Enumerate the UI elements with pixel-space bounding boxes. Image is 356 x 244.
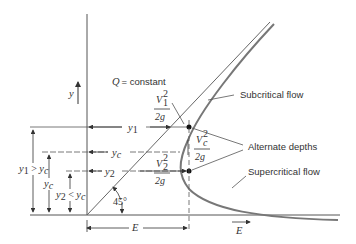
velocity-head-2: V 2 2 2g xyxy=(154,152,170,186)
svg-text:2g: 2g xyxy=(195,151,205,162)
q-constant-label: Q= constant xyxy=(112,76,166,87)
subcritical-flow-label: Subcritical flow xyxy=(240,89,303,100)
angle-45-label: 45° xyxy=(113,196,127,207)
y-axis-label: y xyxy=(68,88,74,99)
velocity-head-1: V 1 2 2g xyxy=(154,88,184,124)
svg-text:2g: 2g xyxy=(155,111,165,122)
y1-label: y1 xyxy=(127,122,138,135)
supercritical-flow-label: Supercritical flow xyxy=(248,166,320,177)
e-axis-label: E xyxy=(235,225,243,236)
svg-text:2: 2 xyxy=(163,88,168,99)
y2-label: y2 xyxy=(104,166,115,179)
specific-energy-diagram: y Q= constant V 1 2 2g Subcritical flow … xyxy=(0,0,356,244)
e-dimension-label: E xyxy=(131,222,139,233)
specific-energy-curve xyxy=(181,24,338,220)
svg-text:2: 2 xyxy=(163,152,168,163)
alternate-depths-label: Alternate depths xyxy=(248,141,317,152)
svg-text:2g: 2g xyxy=(155,175,165,186)
yc-label: yc xyxy=(111,147,122,160)
asymptote-45-line xyxy=(87,22,270,215)
